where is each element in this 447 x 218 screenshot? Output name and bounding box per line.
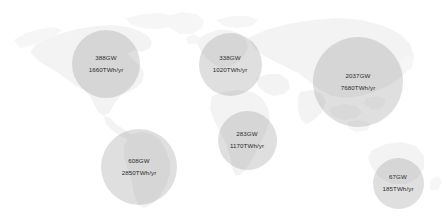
bubble-generation-label: 185TWh/yr [382,186,413,192]
bubble-layer: 388GW 1660TWh/yr 608GW 2850TWh/yr 338GW … [0,0,447,218]
bubble-capacity-label: 2037GW [345,73,370,79]
bubble-africa-middle-east[interactable]: 283GW 1170TWh/yr [218,111,277,170]
bubble-generation-label: 1660TWh/yr [89,67,124,73]
bubble-generation-label: 7680TWh/yr [341,85,376,91]
bubble-generation-label: 1170TWh/yr [230,143,264,149]
bubble-generation-label: 1020TWh/yr [213,67,248,73]
bubble-europe[interactable]: 338GW 1020TWh/yr [199,33,262,96]
bubble-capacity-label: 283GW [236,131,257,137]
bubble-map-figure: 388GW 1660TWh/yr 608GW 2850TWh/yr 338GW … [0,0,447,218]
bubble-oceania[interactable]: 67GW 185TWh/yr [373,158,424,209]
bubble-north-america[interactable]: 388GW 1660TWh/yr [72,30,140,98]
bubble-capacity-label: 67GW [389,174,407,180]
bubble-generation-label: 2850TWh/yr [122,170,157,176]
bubble-capacity-label: 608GW [128,158,149,164]
bubble-capacity-label: 388GW [95,55,116,61]
bubble-asia[interactable]: 2037GW 7680TWh/yr [313,37,403,127]
bubble-capacity-label: 338GW [219,55,240,61]
bubble-south-america[interactable]: 608GW 2850TWh/yr [101,129,177,205]
